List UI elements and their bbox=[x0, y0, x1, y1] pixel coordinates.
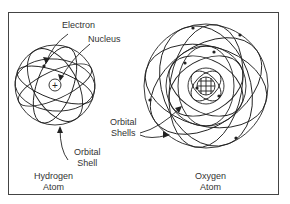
nucleus-label: Nucleus bbox=[88, 34, 121, 45]
electron-dot bbox=[42, 64, 45, 67]
nucleus-plus-icon: + bbox=[52, 80, 58, 91]
oxygen-atom-title: Oxygen Atom bbox=[195, 171, 226, 193]
hydrogen-atom-title: Hydrogen Atom bbox=[34, 171, 73, 193]
orbital-shell-label: Orbital Shell bbox=[74, 147, 101, 169]
orbital-shells-label: Orbital Shells bbox=[110, 117, 137, 139]
electron-label: Electron bbox=[62, 20, 95, 31]
leader-lines bbox=[46, 34, 180, 160]
